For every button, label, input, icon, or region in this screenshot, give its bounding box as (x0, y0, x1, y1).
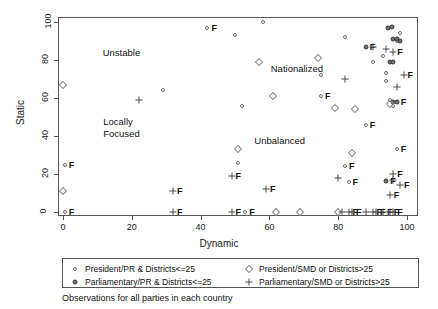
data-point (243, 210, 247, 214)
point-label: F (236, 171, 242, 181)
data-point (389, 24, 394, 29)
data-point (255, 58, 263, 66)
data-point (347, 180, 351, 184)
data-point (381, 54, 385, 58)
data-point (364, 123, 368, 127)
data-point (393, 83, 400, 90)
data-point (394, 99, 399, 104)
data-point (170, 209, 177, 216)
point-label: F (349, 161, 355, 171)
data-point (397, 182, 404, 189)
legend-label: Parliamentary/SMD or Districts>25 (259, 277, 390, 287)
data-point (371, 60, 375, 64)
point-label: F (397, 207, 403, 217)
data-point (205, 26, 209, 30)
point-label: F (177, 207, 183, 217)
point-label: F (177, 186, 183, 196)
figure-caption: Observations for all parties in each cou… (62, 293, 233, 303)
data-point (228, 172, 235, 179)
data-point (313, 54, 321, 62)
legend-item[interactable]: Parliamentary/PR & Districts<=25 (69, 275, 212, 289)
data-point (170, 188, 177, 195)
data-point (335, 174, 342, 181)
data-point (400, 72, 407, 79)
point-label: F (401, 144, 407, 154)
legend-marker-icon (69, 276, 81, 288)
data-point (343, 35, 347, 39)
data-point (351, 105, 359, 113)
data-point (296, 208, 304, 216)
data-point (348, 209, 355, 216)
point-label: F (408, 70, 414, 80)
data-point (319, 94, 323, 98)
point-label: F (404, 180, 410, 190)
data-point (262, 186, 269, 193)
data-point (386, 191, 393, 198)
x-tick (407, 216, 408, 220)
data-point (343, 164, 347, 168)
point-label: F (356, 207, 362, 217)
legend-marker-icon (243, 263, 255, 275)
data-point (363, 44, 368, 49)
point-label: F (397, 169, 403, 179)
data-point (331, 103, 339, 111)
legend-item[interactable]: President/SMD or Districts>25 (243, 262, 373, 276)
data-point (59, 187, 67, 195)
x-tick-label: 40 (196, 222, 206, 232)
data-point (135, 96, 142, 103)
chart-legend: President/PR & Districts<=25Parliamentar… (62, 258, 419, 288)
data-point (398, 31, 402, 35)
data-point (228, 209, 235, 216)
data-point (395, 147, 399, 151)
point-label: F (401, 97, 407, 107)
y-tick (54, 174, 58, 175)
point-label: F (236, 207, 242, 217)
data-point (63, 163, 67, 167)
legend-item[interactable]: President/PR & Districts<=25 (69, 262, 195, 276)
y-tick (54, 98, 58, 99)
legend-item[interactable]: Parliamentary/SMD or Districts>25 (243, 275, 390, 289)
x-tick (269, 216, 270, 220)
x-tick-label: 20 (127, 222, 137, 232)
data-point (269, 92, 277, 100)
point-label: F (353, 177, 359, 187)
y-tick-label: 60 (40, 92, 50, 102)
point-label: F (394, 190, 400, 200)
region-annotation: Unstable (103, 47, 141, 58)
y-tick (54, 136, 58, 137)
x-tick-label: 0 (60, 222, 65, 232)
point-label: F (69, 160, 75, 170)
data-point (261, 20, 265, 24)
data-point (369, 43, 376, 50)
legend-label: Parliamentary/PR & Districts<=25 (85, 277, 212, 287)
data-point (348, 149, 356, 157)
y-tick-label: 100 (40, 16, 55, 26)
data-point (390, 49, 397, 56)
y-tick-label: 80 (40, 54, 50, 64)
legend-marker-icon (69, 263, 81, 275)
point-label: F (397, 47, 403, 57)
point-label: F (370, 120, 376, 130)
x-tick (132, 216, 133, 220)
y-tick (54, 212, 58, 213)
legend-label: President/SMD or Districts>25 (259, 264, 373, 274)
data-point (233, 33, 237, 37)
x-tick (201, 216, 202, 220)
data-point (391, 59, 396, 64)
point-label: F (249, 207, 255, 217)
data-point (59, 80, 67, 88)
legend-label: President/PR & Districts<=25 (85, 264, 195, 274)
data-point (236, 161, 240, 165)
scatter-plot-figure: FFFFFFFFFFFFFFFFFFFFFFFFFFFFF 0204060801… (0, 0, 438, 309)
data-point (384, 71, 388, 75)
y-axis-label: Static (15, 83, 26, 143)
x-tick-label: 100 (399, 222, 414, 232)
x-tick (338, 216, 339, 220)
data-point (161, 88, 165, 92)
legend-marker-icon (243, 276, 255, 288)
y-tick-label: 40 (40, 130, 50, 140)
data-point (384, 178, 389, 183)
data-point (319, 73, 323, 77)
data-point (384, 79, 388, 83)
data-point (234, 145, 242, 153)
